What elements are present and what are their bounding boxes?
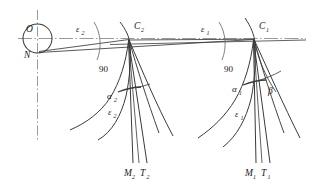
label-epsilon-low-right-group: ε 1: [235, 109, 244, 121]
label-epsilon-low-left-group: ε 2: [108, 107, 117, 119]
label-bottom-left-group: M 2 T 2: [123, 168, 150, 180]
label-alpha-left: α: [107, 91, 112, 101]
label-alpha-right-sub: 1: [239, 90, 242, 96]
label-right-angle-left: 90: [99, 64, 109, 74]
secondary-ray-through-c2: [110, 40, 306, 45]
label-epsilon-low-right: ε: [235, 109, 239, 119]
label-vertex-left-group: C 2: [134, 21, 144, 33]
label-alpha-left-sub: 2: [114, 97, 117, 103]
label-meridian-right-sub: 1: [253, 174, 256, 180]
left-fan-line-middle: [129, 40, 159, 133]
label-meridian-left-sub: 2: [132, 174, 135, 180]
label-right-angle-right: 90: [224, 64, 234, 74]
label-beta: β: [267, 86, 273, 96]
label-vertex-right-group: C 1: [259, 21, 269, 33]
label-epsilon-top-right: ε: [201, 24, 205, 34]
label-track-left: T: [140, 168, 146, 178]
right-fan-line-outer: [254, 40, 300, 139]
sight-line-n-c1: [39, 40, 254, 53]
label-epsilon-low-right-sub: 1: [241, 115, 244, 121]
label-track-right-sub: 1: [268, 174, 271, 180]
label-vertex-right-sub: 1: [266, 27, 269, 33]
label-track-right: T: [261, 168, 267, 178]
left-epsilon-arc: [94, 22, 100, 60]
label-epsilon-top-right-group: ε 1: [201, 24, 210, 36]
label-epsilon-top-left: ε: [76, 24, 80, 34]
label-epsilon-top-right-sub: 1: [207, 30, 210, 36]
label-epsilon-low-left-sub: 2: [114, 113, 117, 119]
diagram-canvas: O N ε 2 C 2 ε 1 C 1 90 90 α 2: [0, 0, 322, 187]
sight-lines: [39, 39, 306, 52]
label-vertex-left-sub: 2: [141, 27, 144, 33]
label-track-left-sub: 2: [147, 174, 150, 180]
label-observer-bottom: N: [23, 50, 31, 60]
label-epsilon-top-left-sub: 2: [82, 30, 85, 36]
right-epsilon-curve: [198, 40, 254, 138]
label-epsilon-low-left: ε: [108, 107, 112, 117]
label-observer-top: O: [26, 24, 33, 34]
label-vertex-right: C: [259, 21, 266, 31]
label-alpha-right-group: α 1: [232, 84, 242, 96]
label-bottom-right-group: M 1 T 1: [244, 168, 271, 180]
label-vertex-left: C: [134, 21, 141, 31]
chord-c2-c1: [128, 39, 254, 40]
label-epsilon-top-left-group: ε 2: [76, 24, 85, 36]
label-alpha-left-group: α 2: [107, 91, 117, 103]
diagram-svg: O N ε 2 C 2 ε 1 C 1 90 90 α 2: [0, 0, 322, 187]
label-alpha-right: α: [232, 84, 237, 94]
